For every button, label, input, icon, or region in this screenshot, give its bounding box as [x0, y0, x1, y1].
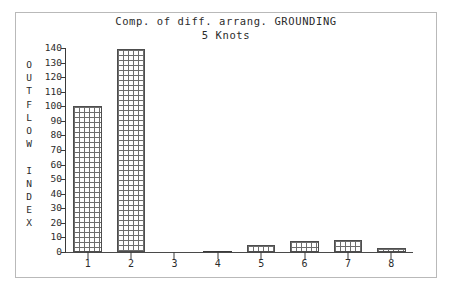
y-axis-label-char: W	[22, 137, 36, 150]
x-tick-label: 3	[171, 258, 177, 270]
y-axis-label: OUTFLOW.INDEX	[22, 58, 36, 230]
y-tick-label: 50	[36, 174, 62, 184]
x-tick-label: 4	[215, 258, 221, 270]
bar	[73, 106, 102, 252]
y-tick-label: 40	[36, 189, 62, 199]
y-tick-mark	[61, 252, 66, 253]
y-tick-mark	[61, 77, 66, 78]
y-axis-label-char: D	[22, 190, 36, 203]
y-axis-label-char: L	[22, 111, 36, 124]
y-tick-mark	[61, 150, 66, 151]
y-axis-label-char: O	[22, 124, 36, 137]
x-tick-label: 5	[258, 258, 264, 270]
y-tick-label: 10	[36, 233, 62, 243]
x-tick-label: 8	[388, 258, 394, 270]
y-axis-tick-labels: 0102030405060708090100110120130140	[36, 0, 62, 291]
y-axis-label-char: O	[22, 58, 36, 71]
y-tick-label: 90	[36, 116, 62, 126]
y-tick-mark	[61, 135, 66, 136]
y-tick-mark	[61, 63, 66, 64]
plot-area	[66, 48, 413, 252]
x-tick-label: 1	[85, 258, 91, 270]
y-tick-label: 70	[36, 145, 62, 155]
y-tick-mark	[61, 106, 66, 107]
x-tick-label: 2	[128, 258, 134, 270]
y-tick-label: 30	[36, 204, 62, 214]
y-tick-label: 120	[36, 72, 62, 82]
y-tick-mark	[61, 237, 66, 238]
x-tick-label: 6	[302, 258, 308, 270]
x-axis-tick-labels: 12345678	[66, 258, 413, 274]
y-tick-label: 60	[36, 160, 62, 170]
y-axis-label-char: X	[22, 216, 36, 229]
y-tick-mark	[61, 48, 66, 49]
bar	[334, 240, 363, 252]
y-tick-label: 100	[36, 102, 62, 112]
bar	[117, 49, 146, 252]
y-tick-label: 80	[36, 131, 62, 141]
y-tick-mark	[61, 165, 66, 166]
y-tick-label: 110	[36, 87, 62, 97]
y-axis-label-char: N	[22, 177, 36, 190]
y-tick-label: 0	[36, 247, 62, 257]
y-tick-mark	[61, 179, 66, 180]
x-tick-label: 7	[345, 258, 351, 270]
y-axis-label-char: E	[22, 203, 36, 216]
bar	[247, 245, 276, 252]
y-tick-label: 20	[36, 218, 62, 228]
y-tick-label: 130	[36, 58, 62, 68]
y-tick-label: 140	[36, 43, 62, 53]
y-tick-mark	[61, 194, 66, 195]
y-tick-mark	[61, 223, 66, 224]
y-axis-label-char: T	[22, 84, 36, 97]
chart-figure: Comp. of diff. arrang. GROUNDING 5 Knots…	[0, 0, 451, 291]
bar	[290, 241, 319, 252]
y-tick-mark	[61, 92, 66, 93]
y-axis-label-char: I	[22, 164, 36, 177]
y-tick-mark	[61, 208, 66, 209]
y-tick-mark	[61, 121, 66, 122]
y-axis-label-char: F	[22, 98, 36, 111]
y-axis-label-char: U	[22, 71, 36, 84]
x-axis-line	[65, 252, 413, 253]
